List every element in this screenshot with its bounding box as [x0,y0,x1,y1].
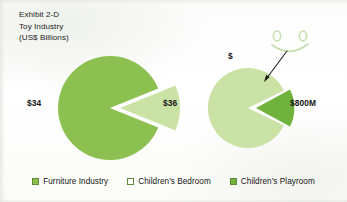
legend-swatch-furniture-industry [32,178,39,185]
arrow-pointer-icon [264,51,287,82]
label-furniture-industry-value: $34 [27,98,41,108]
legend-item-furniture-industry: Furniture Industry [32,177,108,186]
label-childrens-bedroom-total: $ [228,51,233,61]
legend-label-childrens-playroom: Children's Playroom [241,177,315,186]
pie-chart-left [58,56,180,160]
exhibit-chart-screenshot: Exhibit 2-D Toy Industry (US$ Billions) [0,0,347,202]
label-childrens-bedroom-value: $36 [163,98,177,108]
legend-label-childrens-bedroom: Children's Bedroom [138,177,211,186]
legend-item-childrens-bedroom: Children's Bedroom [127,177,211,186]
chart-legend: Furniture Industry Children's Bedroom Ch… [0,177,347,186]
smiley-face-icon [272,31,308,51]
legend-swatch-childrens-bedroom [127,178,134,185]
legend-item-childrens-playroom: Children's Playroom [230,177,315,186]
label-childrens-playroom-value: $800M [290,98,316,108]
legend-swatch-childrens-playroom [230,178,237,185]
legend-label-furniture-industry: Furniture Industry [43,177,108,186]
pie-chart-right [208,68,294,148]
